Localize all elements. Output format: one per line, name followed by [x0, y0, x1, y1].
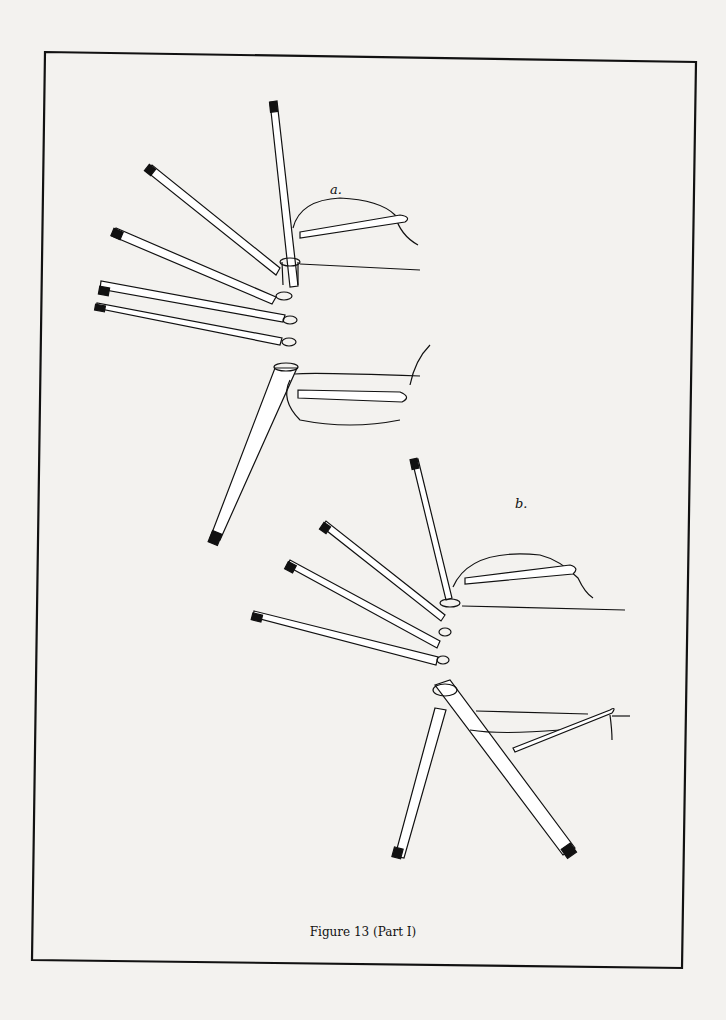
panel-label-b: b. [515, 496, 527, 511]
panel-a-sticks [95, 101, 430, 545]
figure-drawing [0, 0, 726, 1020]
figure-frame [32, 52, 696, 968]
panel-label-a: a. [330, 182, 342, 197]
panel-b-sticks [251, 458, 630, 859]
figure-caption: Figure 13 (Part I) [0, 925, 726, 939]
